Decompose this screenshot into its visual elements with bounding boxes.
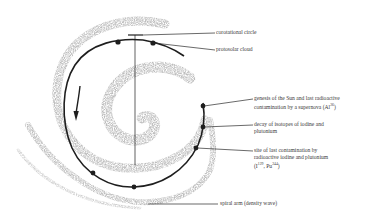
leader-genesis xyxy=(204,99,253,106)
marker-genesis xyxy=(201,104,206,109)
marker-top-right xyxy=(150,40,155,45)
spiral-arm-band xyxy=(18,21,213,208)
label-spiral-arm: spiral arm (density wave) xyxy=(220,200,277,207)
marker-bottom-left xyxy=(91,171,96,176)
label-protosolar-cloud: protosolar cloud xyxy=(216,46,253,53)
label-decay: decay of isotopes of iodine and plutoniu… xyxy=(254,121,324,135)
marker-top-left xyxy=(115,39,120,44)
leader-protosolar-cloud xyxy=(154,43,215,50)
label-corotational-circle: corotational circle xyxy=(216,29,257,36)
marker-bottom xyxy=(132,185,137,190)
label-genesis: genesis of the Sun and last radioactive … xyxy=(254,95,340,111)
leader-corotational-circle xyxy=(143,33,215,35)
marker-decay xyxy=(201,125,206,130)
leader-site xyxy=(197,148,253,151)
rotation-arrow-icon xyxy=(74,86,81,121)
protosolar-cloud-arc xyxy=(143,40,184,56)
label-site: site of last contamination by radioactiv… xyxy=(254,147,328,170)
genesis-line2: contamination by a supernova (Al26) xyxy=(254,102,340,111)
marker-site xyxy=(194,146,199,151)
site-line3: (I129, Pu244) xyxy=(254,161,328,170)
spiral-diagram xyxy=(0,0,381,222)
leader-lines xyxy=(143,33,253,204)
